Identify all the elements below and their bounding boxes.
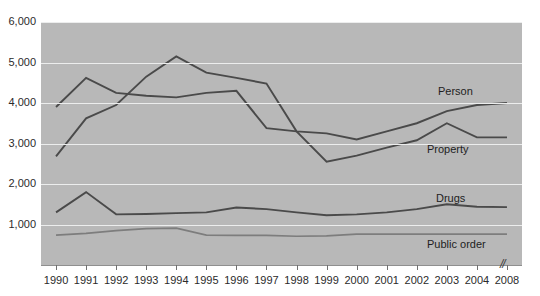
x-tick bbox=[327, 265, 328, 270]
x-tick bbox=[357, 265, 358, 270]
x-tick-label: 2000 bbox=[344, 274, 368, 286]
x-tick bbox=[477, 265, 478, 270]
x-tick bbox=[86, 265, 87, 270]
x-tick-label: 2002 bbox=[405, 274, 429, 286]
x-tick bbox=[297, 265, 298, 270]
x-tick-label: 1999 bbox=[314, 274, 338, 286]
x-tick-label: 1995 bbox=[194, 274, 218, 286]
axis-break-symbol: // bbox=[500, 258, 505, 270]
x-tick-label: 1991 bbox=[74, 274, 98, 286]
y-tick-label: 4,000 bbox=[8, 97, 36, 108]
x-tick-label: 2001 bbox=[374, 274, 398, 286]
gridline bbox=[41, 225, 522, 226]
x-tick bbox=[387, 265, 388, 270]
series-label-drugs: Drugs bbox=[436, 192, 465, 204]
gridline bbox=[41, 103, 522, 104]
x-tick bbox=[236, 265, 237, 270]
x-tick bbox=[116, 265, 117, 270]
x-tick-label: 1992 bbox=[104, 274, 128, 286]
series-label-person: Person bbox=[438, 85, 473, 97]
x-tick-label: 1997 bbox=[254, 274, 278, 286]
x-tick bbox=[447, 265, 448, 270]
x-tick-label: 1996 bbox=[224, 274, 248, 286]
y-tick-label: 6,000 bbox=[8, 16, 36, 27]
x-tick-label: 2003 bbox=[435, 274, 459, 286]
x-tick bbox=[417, 265, 418, 270]
x-tick bbox=[266, 265, 267, 270]
x-tick-label: 1990 bbox=[44, 274, 68, 286]
series-line-public-order bbox=[56, 228, 507, 236]
x-tick bbox=[176, 265, 177, 270]
line-chart-figure: .............. 1,0002,0003,0004,0005,000… bbox=[0, 0, 540, 296]
x-tick bbox=[56, 265, 57, 270]
y-tick-label: 1,000 bbox=[8, 219, 36, 230]
y-tick-label: 5,000 bbox=[8, 57, 36, 68]
x-tick-label: 1993 bbox=[134, 274, 158, 286]
x-tick bbox=[146, 265, 147, 270]
x-tick-label: 1994 bbox=[164, 274, 188, 286]
x-tick-label: 2004 bbox=[465, 274, 489, 286]
x-tick bbox=[206, 265, 207, 270]
title-remnant: .............. bbox=[41, 0, 83, 1]
y-tick-label: 2,000 bbox=[8, 178, 36, 189]
y-axis: 1,0002,0003,0004,0005,0006,000 bbox=[0, 0, 36, 296]
gridline bbox=[41, 184, 522, 185]
gridline bbox=[41, 22, 522, 23]
x-tick-label: 1998 bbox=[284, 274, 308, 286]
x-tick bbox=[507, 265, 508, 270]
x-axis-line bbox=[41, 265, 522, 266]
x-tick-label: 2008 bbox=[495, 274, 519, 286]
series-label-public-order: Public order bbox=[427, 238, 486, 250]
series-label-property: Property bbox=[427, 143, 469, 155]
y-tick-label: 3,000 bbox=[8, 138, 36, 149]
gridline bbox=[41, 63, 522, 64]
